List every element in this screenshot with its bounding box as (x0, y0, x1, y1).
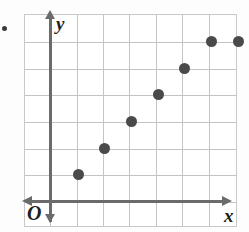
data-point (73, 169, 84, 180)
data-point (233, 36, 244, 47)
y-axis-arrow-up-icon (45, 10, 55, 19)
gridline-horizontal (25, 95, 236, 96)
y-axis-line (49, 17, 52, 222)
data-point (153, 89, 164, 100)
data-point (126, 116, 137, 127)
gridline-vertical (77, 15, 78, 226)
x-axis-line (30, 200, 224, 203)
gridline-horizontal (25, 175, 236, 176)
gridline-horizontal (25, 69, 236, 70)
coordinate-grid (24, 14, 237, 227)
gridline-horizontal (25, 42, 236, 43)
x-axis-label: x (224, 206, 234, 225)
y-axis-label: y (56, 14, 64, 33)
y-axis-arrow-down-icon (45, 214, 55, 223)
origin-label: O (27, 203, 41, 223)
item-bullet-dot-icon (2, 26, 7, 31)
gridline-vertical (182, 15, 183, 226)
data-point (206, 36, 217, 47)
gridline-vertical (156, 15, 157, 226)
data-point (99, 143, 110, 154)
data-point (179, 63, 190, 74)
gridline-horizontal (25, 149, 236, 150)
gridline-vertical (103, 15, 104, 226)
scatter-plot-figure: y x O (0, 0, 249, 232)
